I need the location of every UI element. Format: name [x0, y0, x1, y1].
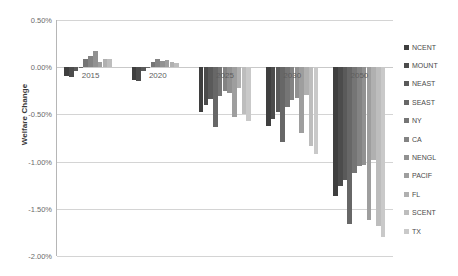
legend-swatch-icon	[404, 229, 409, 234]
legend-label: SEAST	[412, 99, 435, 106]
legend-item-PACIF[interactable]: PACIF	[404, 167, 458, 185]
legend-swatch-icon	[404, 173, 409, 178]
legend-swatch-icon	[404, 137, 409, 142]
bar-group-2015	[64, 20, 116, 256]
legend-item-NEAST[interactable]: NEAST	[404, 75, 458, 93]
legend-item-MOUNT[interactable]: MOUNT	[404, 56, 458, 74]
legend-label: CA	[412, 136, 422, 143]
bar-group-2020	[132, 20, 184, 256]
legend-item-NY[interactable]: NY	[404, 112, 458, 130]
legend-swatch-icon	[404, 118, 409, 123]
y-tick-label: -1.00%	[8, 157, 52, 166]
y-tick-label: 0.00%	[8, 63, 52, 72]
chart-legend: NCENTMOUNTNEASTSEASTNYCANENGLPACIFFLSCEN…	[404, 38, 458, 240]
legend-swatch-icon	[404, 192, 409, 197]
bar-TX-2030	[314, 67, 319, 154]
bar-group-2030	[266, 20, 318, 256]
y-axis-tick-labels: 0.50%0.00%-0.50%-1.00%-1.50%-2.00%	[0, 0, 52, 276]
legend-swatch-icon	[404, 155, 409, 160]
bar-SCENT-2015	[107, 59, 112, 67]
legend-swatch-icon	[404, 100, 409, 105]
x-group-label-2030: 2030	[266, 71, 318, 80]
legend-item-SEAST[interactable]: SEAST	[404, 93, 458, 111]
legend-swatch-icon	[404, 81, 409, 86]
legend-label: PACIF	[412, 172, 432, 179]
bar-SEAST-2020	[146, 67, 151, 68]
legend-label: NCENT	[412, 44, 436, 51]
bar-TX-2015	[112, 67, 117, 68]
x-group-label-2015: 2015	[64, 71, 116, 80]
legend-label: NY	[412, 117, 422, 124]
legend-item-TX[interactable]: TX	[404, 222, 458, 240]
y-tick-label: -1.50%	[8, 204, 52, 213]
legend-item-SCENT[interactable]: SCENT	[404, 204, 458, 222]
legend-item-NCENT[interactable]: NCENT	[404, 38, 458, 56]
x-group-label-2025: 2025	[199, 71, 251, 80]
x-group-label-2050: 2050	[333, 71, 385, 80]
legend-label: FL	[412, 191, 420, 198]
y-tick-label: -0.50%	[8, 110, 52, 119]
y-tick-label: 0.50%	[8, 16, 52, 25]
legend-item-NENGL[interactable]: NENGL	[404, 148, 458, 166]
plot-area: 20152020202520302050	[56, 20, 393, 256]
legend-item-CA[interactable]: CA	[404, 130, 458, 148]
legend-item-FL[interactable]: FL	[404, 185, 458, 203]
legend-label: TX	[412, 228, 421, 235]
legend-label: NEAST	[412, 80, 435, 87]
welfare-change-bar-chart: Welfare Change 0.50%0.00%-0.50%-1.00%-1.…	[0, 0, 458, 276]
legend-label: SCENT	[412, 209, 436, 216]
bar-TX-2020	[179, 67, 184, 68]
legend-swatch-icon	[404, 210, 409, 215]
x-group-label-2020: 2020	[132, 71, 184, 80]
bar-group-2025	[199, 20, 251, 256]
bar-SEAST-2015	[79, 67, 84, 68]
legend-swatch-icon	[404, 63, 409, 68]
bar-TX-2050	[381, 67, 386, 237]
bar-group-2050	[333, 20, 385, 256]
gridline	[57, 256, 393, 257]
legend-label: NENGL	[412, 154, 436, 161]
legend-swatch-icon	[404, 45, 409, 50]
legend-label: MOUNT	[412, 62, 438, 69]
y-tick-label: -2.00%	[8, 252, 52, 261]
